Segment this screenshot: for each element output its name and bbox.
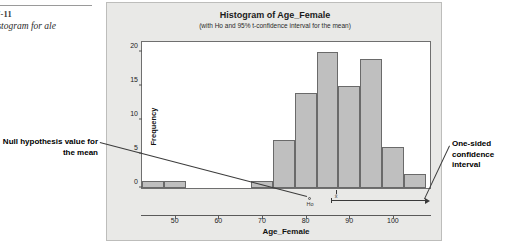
histogram-bar xyxy=(382,147,404,188)
confidence-interval-arrow xyxy=(425,198,430,204)
histogram-bar xyxy=(273,140,295,188)
histogram-bar xyxy=(317,52,339,188)
y-tick-label: 0 xyxy=(134,178,138,185)
histogram-bar xyxy=(295,93,317,188)
x-axis-label: Age_Female xyxy=(141,227,431,236)
y-tick-mark xyxy=(139,85,142,86)
figure-caption: 7-11 histogram for ale xyxy=(0,0,104,243)
chart-subtitle: (with Ho and 95% t-confidence interval f… xyxy=(107,22,443,29)
y-axis-label: Frequency xyxy=(149,92,158,162)
annotation-null-hypothesis: Null hypothesis value for the mean xyxy=(2,137,98,158)
x-tick-mark xyxy=(262,215,263,219)
ho-label: Ho xyxy=(306,201,313,207)
chart-title: Histogram of Age_Female xyxy=(107,10,443,20)
figure-number: 7-11 xyxy=(0,9,12,19)
histogram-bar xyxy=(142,181,164,188)
x-tick-mark xyxy=(349,215,350,219)
confidence-interval-line xyxy=(331,200,425,201)
histogram-bar xyxy=(360,59,382,188)
x-tick-mark xyxy=(306,215,307,219)
histogram-bar xyxy=(404,174,426,188)
sample-mean-label: x̄ xyxy=(335,193,338,199)
y-tick-label: 15 xyxy=(130,76,138,83)
x-axis-line xyxy=(141,215,431,216)
annotation-confidence-interval: One-sided confidence interval xyxy=(452,139,522,171)
ho-marker xyxy=(308,197,311,200)
x-tick-mark xyxy=(175,215,176,219)
y-tick-mark xyxy=(139,51,142,52)
confidence-interval-cap xyxy=(331,198,332,203)
histogram-bar xyxy=(164,181,186,188)
x-tick-mark xyxy=(218,215,219,219)
histogram-bar xyxy=(338,86,360,188)
x-tick-mark xyxy=(393,215,394,219)
chart-panel: Histogram of Age_Female (with Ho and 95%… xyxy=(106,2,442,241)
y-tick-label: 10 xyxy=(130,110,138,117)
plot-area: Frequency 05101520 xyxy=(141,41,431,189)
figure-description: histogram for ale xyxy=(0,20,102,33)
caption-divider xyxy=(0,5,92,6)
y-tick-mark xyxy=(139,119,142,120)
y-tick-label: 5 xyxy=(134,144,138,151)
y-tick-label: 20 xyxy=(130,42,138,49)
